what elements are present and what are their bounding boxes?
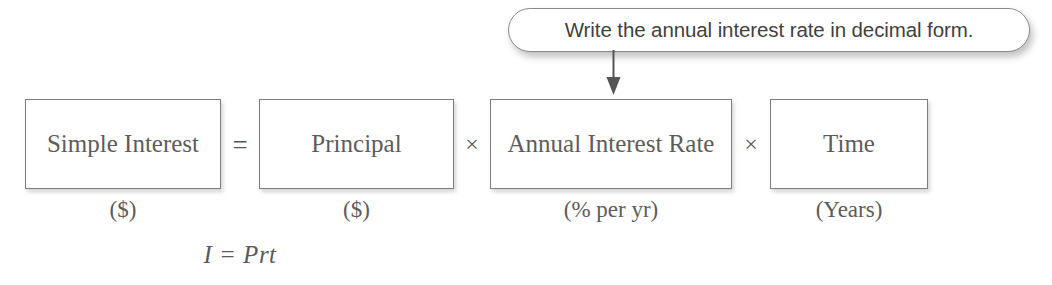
term-box-annual-interest-rate: Annual Interest Rate: [490, 99, 732, 189]
simple-interest-formula-diagram: Write the annual interest rate in decima…: [0, 0, 1052, 285]
term-box-principal: Principal: [259, 99, 454, 189]
unit-label-simple-interest: ($): [25, 198, 221, 221]
formula-expression: I = Prt: [140, 241, 340, 269]
term-label-annual-interest-rate: Annual Interest Rate: [502, 129, 721, 160]
unit-label-principal: ($): [259, 198, 454, 221]
term-box-time: Time: [770, 99, 928, 189]
callout-text: Write the annual interest rate in decima…: [565, 18, 974, 42]
term-label-principal: Principal: [305, 129, 407, 160]
operator-equals: =: [224, 132, 256, 159]
term-box-simple-interest: Simple Interest: [25, 99, 221, 189]
operator-multiply-second: ×: [733, 132, 769, 156]
callout-arrow-icon: [596, 50, 632, 96]
callout-bubble: Write the annual interest rate in decima…: [508, 8, 1030, 52]
unit-label-time: (Years): [770, 198, 928, 221]
operator-multiply-first: ×: [455, 132, 489, 156]
term-label-time: Time: [817, 129, 881, 160]
term-label-simple-interest: Simple Interest: [41, 129, 205, 160]
unit-label-annual-interest-rate: (% per yr): [490, 198, 732, 221]
